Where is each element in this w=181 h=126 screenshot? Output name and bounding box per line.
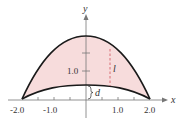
x-tick-label-2: 2.0 xyxy=(144,105,156,115)
x-tick-label-neg1: -1.0 xyxy=(43,105,58,115)
x-tick-label-neg2: -2.0 xyxy=(10,105,25,115)
y-axis-label: y xyxy=(82,3,88,14)
distance-label: d xyxy=(95,87,101,98)
y-axis-arrow-icon xyxy=(84,14,89,20)
region-diagram: x y -2.0 -1.0 1.0 2.0 1.0 l d xyxy=(0,0,181,126)
x-axis-arrow-icon xyxy=(162,98,168,103)
x-axis-label: x xyxy=(170,94,176,105)
y-tick-label-1: 1.0 xyxy=(67,66,79,76)
length-label: l xyxy=(113,63,116,74)
x-tick-label-1: 1.0 xyxy=(112,105,124,115)
distance-brace-icon xyxy=(88,86,93,99)
